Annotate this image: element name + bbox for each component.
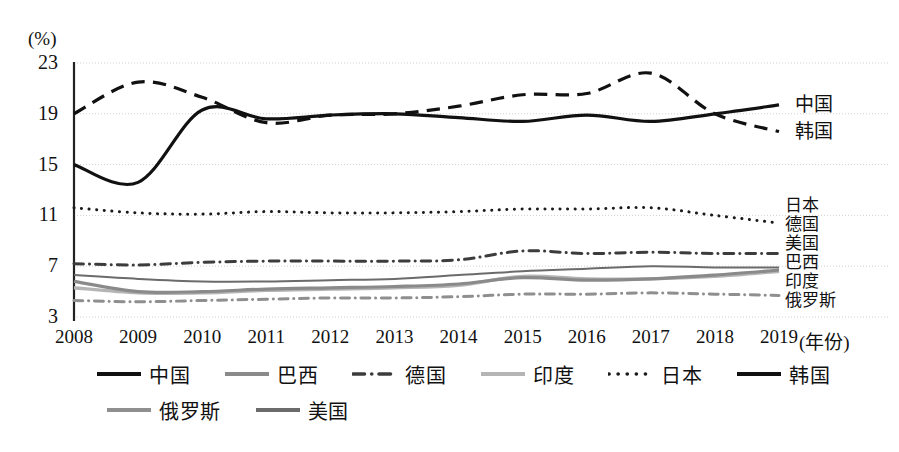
- legend-swatch-icon: [96, 368, 142, 380]
- legend-row: 中国巴西德国印度日本韩国: [96, 356, 856, 392]
- series-end-label-中国: 中国: [795, 95, 833, 114]
- series-line-中国: [74, 105, 779, 185]
- legend-item-日本[interactable]: 日本: [608, 360, 702, 389]
- series-end-label-俄罗斯: 俄罗斯: [785, 292, 836, 309]
- legend-swatch-icon: [224, 368, 270, 380]
- chart-legend: 中国巴西德国印度日本韩国俄罗斯美国: [96, 356, 856, 428]
- legend-label: 巴西: [277, 360, 318, 389]
- legend-item-中国[interactable]: 中国: [96, 360, 190, 389]
- legend-swatch-icon: [736, 368, 782, 380]
- series-line-日本: [74, 207, 779, 223]
- legend-label: 日本: [661, 360, 702, 389]
- series-end-label-巴西: 巴西: [785, 254, 819, 271]
- legend-label: 德国: [405, 360, 446, 389]
- legend-swatch-icon: [255, 404, 301, 416]
- legend-label: 美国: [308, 396, 349, 425]
- legend-swatch-icon: [352, 368, 398, 380]
- series-line-印度: [74, 271, 779, 293]
- legend-item-印度[interactable]: 印度: [480, 360, 574, 389]
- series-end-label-德国: 德国: [785, 216, 819, 233]
- chart-container: (%) 3711151923 2008200920102011201220132…: [0, 0, 899, 452]
- legend-label: 印度: [533, 360, 574, 389]
- series-line-德国: [74, 251, 779, 265]
- legend-swatch-icon: [480, 368, 526, 380]
- legend-label: 韩国: [789, 360, 830, 389]
- series-end-label-印度: 印度: [785, 273, 819, 290]
- series-end-label-日本: 日本: [785, 197, 819, 214]
- legend-row: 俄罗斯美国: [96, 392, 856, 428]
- legend-item-美国[interactable]: 美国: [255, 396, 349, 425]
- legend-item-德国[interactable]: 德国: [352, 360, 446, 389]
- legend-swatch-icon: [106, 404, 152, 416]
- legend-label: 中国: [149, 360, 190, 389]
- legend-item-巴西[interactable]: 巴西: [224, 360, 318, 389]
- legend-item-俄罗斯[interactable]: 俄罗斯: [106, 396, 221, 425]
- series-line-韩国: [74, 73, 779, 132]
- legend-item-韩国[interactable]: 韩国: [736, 360, 830, 389]
- legend-label: 俄罗斯: [159, 396, 221, 425]
- series-end-label-美国: 美国: [785, 235, 819, 252]
- series-end-label-韩国: 韩国: [795, 122, 833, 141]
- legend-swatch-icon: [608, 368, 654, 380]
